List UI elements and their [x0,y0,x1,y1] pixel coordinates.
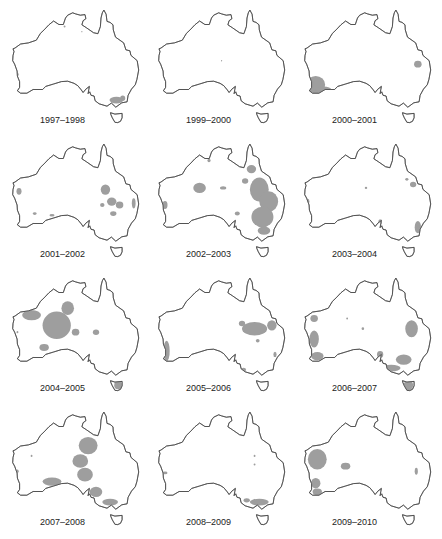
shaded-region [72,454,88,468]
shaded-region [241,368,246,372]
shaded-region [310,315,318,322]
shaded-region [415,468,418,475]
shaded-region [120,96,125,101]
mainland-outline [13,10,139,107]
australia-map [0,0,148,134]
shaded-region [235,211,240,215]
shaded-region [116,202,124,209]
shaded-region [132,198,136,208]
shaded-region [101,184,110,194]
map-panel: 2003–2004 [292,134,440,268]
shaded-region [308,449,327,470]
panel-year-label: 2002–2003 [186,249,231,259]
shaded-region [254,455,256,457]
shaded-region [242,322,267,336]
shaded-region [31,455,33,457]
shaded-region [43,312,71,339]
australia-map [146,402,294,536]
shaded-region [193,183,206,193]
shaded-region [267,320,276,330]
mainland-outline [305,144,431,241]
australia-map [0,268,148,402]
map-panel: 2009–2010 [292,402,440,536]
shaded-region [79,437,98,454]
shaded-region [250,499,269,506]
map-panel: 1999–2000 [146,0,294,134]
panel-year-label: 2005–2006 [186,383,231,393]
australia-map [292,134,440,268]
australia-map [292,0,440,134]
shaded-region [239,321,245,326]
shaded-region [77,468,93,482]
shaded-region [221,60,222,61]
shaded-region [346,317,348,319]
shaded-region [309,330,318,347]
map-panel: 2006–2007 [292,268,440,402]
shaded-region [163,341,169,362]
map-panel: 1997–1998 [0,0,148,134]
panel-year-label: 1999–2000 [186,115,231,125]
shaded-region [72,329,80,336]
shaded-region [16,331,18,333]
mainland-outline [13,144,139,241]
australia-map [146,268,294,402]
shaded-region [39,344,48,351]
shaded-region [16,188,21,195]
panel-year-label: 2007–2008 [40,517,85,527]
shaded-region [273,352,276,357]
panel-year-label: 2004–2005 [40,383,85,393]
mainland-outline [159,412,285,509]
map-panel: 2005–2006 [146,268,294,402]
shaded-region [362,327,365,330]
shaded-region [242,178,248,183]
shaded-region [220,186,226,189]
shaded-region [61,301,74,315]
shaded-region [102,499,118,506]
australia-map [292,268,440,402]
map-panel: 2008–2009 [146,402,294,536]
australia-map [146,134,294,268]
shaded-region [49,214,54,217]
shaded-region [365,187,368,189]
shaded-region [247,165,256,173]
shaded-region [405,178,408,181]
shaded-region [410,182,416,187]
shaded-region [100,203,104,207]
panel-year-label: 2001–2002 [40,249,85,259]
panel-year-label: 2003–2004 [332,249,377,259]
map-panel: 2000–2001 [292,0,440,134]
panel-year-label: 2009–2010 [332,517,377,527]
shaded-region [254,463,256,465]
shaded-region [33,212,37,215]
shaded-region [64,25,66,27]
australia-map [0,402,148,536]
map-panel: 2004–2005 [0,268,148,402]
panel-year-label: 2008–2009 [186,517,231,527]
shaded-region [341,463,350,470]
shaded-region [81,31,82,32]
shaded-region [311,352,324,360]
shaded-region [311,478,320,488]
map-panel: 2001–2002 [0,134,148,268]
map-grid: 1997–19981999–20002000–20012001–20022002… [0,0,442,539]
map-panel: 2002–2003 [146,134,294,268]
shaded-region [90,487,103,497]
shaded-region [207,159,210,162]
shaded-region [382,365,401,372]
shaded-region [107,197,116,205]
australia-map [292,402,440,536]
shaded-region [256,339,260,342]
shaded-region [258,227,271,235]
shaded-region [251,207,273,228]
shaded-region [93,329,99,334]
panel-year-label: 1997–1998 [40,115,85,125]
shaded-region [110,211,116,216]
map-panel: 2007–2008 [0,402,148,536]
shaded-region [244,498,250,502]
mainland-outline [13,278,139,375]
shaded-region [396,354,412,364]
panel-year-label: 2006–2007 [332,383,377,393]
mainland-outline [305,10,431,107]
mainland-outline [159,10,285,107]
australia-map [0,134,148,268]
